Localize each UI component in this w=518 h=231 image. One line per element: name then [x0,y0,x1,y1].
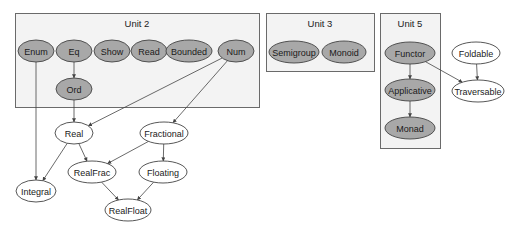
edge-fractional-realfrac [108,141,149,163]
node-label: Read [138,47,160,57]
node-label: Floating [147,168,179,178]
node-foldable: Foldable [452,42,500,64]
unit-box-unit2: Unit 2 [16,14,260,108]
node-realfrac: RealFrac [68,161,116,183]
node-label: Ord [66,85,81,95]
edge-floating-realfloat [137,182,153,200]
node-realfloat: RealFloat [105,199,151,221]
node-label: RealFloat [109,206,148,216]
unit-label: Unit 5 [398,18,423,29]
node-label: Monad [396,124,424,134]
node-monoid: Monoid [322,41,366,63]
node-label: Bounded [171,47,207,57]
node-label: Functor [395,49,426,59]
node-monad: Monad [385,117,435,139]
node-enum: Enum [18,40,54,62]
node-label: Foldable [459,49,494,59]
node-label: Applicative [388,86,432,96]
edge-real-integral [43,143,67,180]
edge-real-realfrac [79,144,87,162]
node-fractional: Fractional [140,122,188,144]
node-label: Semigroup [272,48,316,58]
node-label: Enum [24,47,48,57]
node-label: Traversable [454,87,501,97]
node-traversable: Traversable [452,80,504,102]
edge-realfrac-realfloat [102,182,119,200]
node-read: Read [131,40,167,62]
node-semigroup: Semigroup [269,41,319,63]
node-ord: Ord [56,78,92,100]
node-real: Real [55,122,93,144]
node-show: Show [94,40,130,62]
node-label: Show [101,47,124,57]
node-bounded: Bounded [166,40,212,62]
node-label: Real [65,129,84,139]
node-label: Fractional [144,129,184,139]
unit-label: Unit 2 [125,18,150,29]
node-applicative: Applicative [385,79,435,101]
node-eq: Eq [56,40,92,62]
edge-foldable-traversable [477,64,478,80]
type-class-diagram: Unit 2Unit 3Unit 5 EnumEqShowReadBounded… [0,0,518,231]
node-label: Monoid [329,48,359,58]
node-label: Integral [21,187,51,197]
unit-label: Unit 3 [308,18,333,29]
node-integral: Integral [16,180,56,202]
node-label: RealFrac [74,168,111,178]
node-label: Num [226,47,245,57]
node-num: Num [218,40,254,62]
node-label: Eq [68,47,79,57]
node-functor: Functor [385,42,435,64]
node-floating: Floating [139,161,187,183]
